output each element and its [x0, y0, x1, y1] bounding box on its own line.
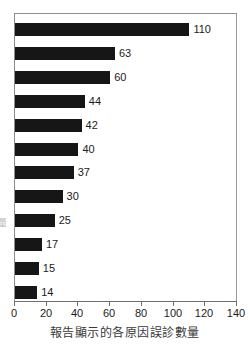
bar-row: 40	[15, 143, 95, 156]
bar-row: 110	[15, 23, 211, 36]
x-axis-tick-label: 60	[103, 307, 115, 319]
bar	[15, 286, 37, 299]
bar-row: 14	[15, 286, 53, 299]
bar	[15, 47, 115, 60]
bar-row: 30	[15, 190, 79, 203]
bar	[15, 190, 63, 203]
bar	[15, 23, 189, 36]
bar-value-label: 17	[46, 239, 58, 250]
bar-value-label: 110	[193, 24, 211, 35]
bar-row: 63	[15, 47, 131, 60]
bar-value-label: 25	[59, 215, 71, 226]
bar	[15, 238, 42, 251]
bar-row: 37	[15, 166, 90, 179]
bar	[15, 71, 110, 84]
bar-value-label: 60	[114, 72, 126, 83]
x-axis-tick-label: 100	[164, 307, 182, 319]
bar	[15, 143, 78, 156]
bar-value-label: 63	[119, 48, 131, 59]
x-axis-tick-label: 120	[195, 307, 213, 319]
bar-value-label: 40	[82, 144, 94, 155]
bar	[15, 166, 74, 179]
bars-container: 1106360444240373025171514	[15, 14, 236, 301]
x-axis-tick	[141, 301, 142, 306]
x-axis-tick-label: 20	[40, 307, 52, 319]
x-axis-tick	[46, 301, 47, 306]
x-axis-tick	[14, 301, 15, 306]
bar-value-label: 37	[78, 167, 90, 178]
bar	[15, 214, 55, 227]
bar	[15, 262, 39, 275]
x-axis-tick	[204, 301, 205, 306]
bar-value-label: 30	[67, 191, 79, 202]
bar-value-label: 42	[86, 120, 98, 131]
bar-value-label: 14	[41, 287, 53, 298]
x-axis-tick	[173, 301, 174, 306]
bar	[15, 95, 85, 108]
x-axis-tick	[109, 301, 110, 306]
bar-row: 25	[15, 214, 71, 227]
x-axis-tick-label: 80	[135, 307, 147, 319]
x-axis-tick-label: 40	[71, 307, 83, 319]
bar-chart-figure: 量 1106360444240373025171514 報告顯示的各原因誤診數量…	[0, 0, 249, 346]
bar-row: 15	[15, 262, 55, 275]
x-axis-tick	[77, 301, 78, 306]
x-axis-tick	[236, 301, 237, 306]
bar-row: 44	[15, 95, 101, 108]
chart-caption: 報告顯示的各原因誤診數量	[0, 325, 249, 341]
bar-row: 42	[15, 119, 98, 132]
bar-value-label: 15	[43, 263, 55, 274]
bar-row: 17	[15, 238, 58, 251]
x-axis-tick-label: 0	[11, 307, 17, 319]
y-axis-label-fragment: 量	[0, 218, 7, 248]
bar	[15, 119, 82, 132]
x-axis-tick-label: 140	[227, 307, 245, 319]
bar-value-label: 44	[89, 96, 101, 107]
bar-row: 60	[15, 71, 126, 84]
